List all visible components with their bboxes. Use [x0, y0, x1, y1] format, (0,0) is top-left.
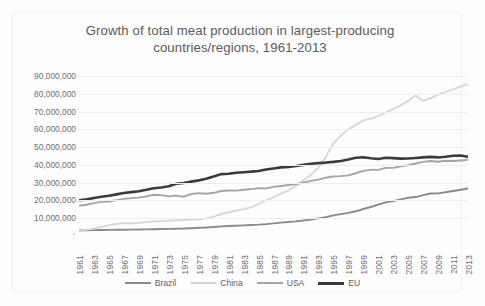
- gridline: [79, 76, 468, 77]
- y-axis-tick-label: 50,000,000: [2, 142, 76, 152]
- x-axis-tick-label: 1975: [180, 255, 190, 274]
- chart-title-line-2: countries/regions, 1961-2013: [40, 39, 440, 56]
- legend-swatch-china: [190, 282, 216, 284]
- gridline: [79, 165, 468, 166]
- x-axis-tick-label: 2003: [389, 255, 399, 274]
- x-axis-tick-label: 1963: [90, 255, 100, 274]
- x-axis-tick-label: 1989: [284, 255, 294, 274]
- y-axis-tick-label: 80,000,000: [2, 89, 76, 99]
- plot-area: [79, 76, 468, 236]
- legend-swatch-brazil: [125, 282, 151, 284]
- y-axis-tick-label: 30,000,000: [2, 178, 76, 188]
- legend-label: China: [220, 278, 242, 288]
- y-axis: 90,000,00080,000,00070,000,00060,000,000…: [0, 76, 76, 236]
- chart-title: Growth of total meat production in large…: [40, 22, 440, 56]
- x-axis-tick-label: 2013: [464, 255, 474, 274]
- x-axis-tick-label: 1991: [299, 255, 309, 274]
- x-axis-tick-label: 2005: [404, 255, 414, 274]
- chart-figure: Growth of total meat production in large…: [0, 0, 485, 306]
- x-axis-tick-label: 1961: [75, 255, 85, 274]
- x-axis: 1961196319651967196919711973197519771979…: [79, 238, 468, 274]
- legend-item-usa[interactable]: USA: [257, 278, 305, 288]
- gridline: [79, 147, 468, 148]
- x-axis-tick-label: 1983: [240, 255, 250, 274]
- gridline: [79, 200, 468, 201]
- y-axis-tick-label: 20,000,000: [2, 195, 76, 205]
- series-lines: [79, 76, 468, 236]
- x-axis-tick-label: 2001: [374, 255, 384, 274]
- x-axis-tick-label: 1999: [359, 255, 369, 274]
- x-axis-tick-label: 1965: [105, 255, 115, 274]
- gridline: [79, 94, 468, 95]
- x-axis-tick-label: 1977: [195, 255, 205, 274]
- gridline: [79, 112, 468, 113]
- chart-legend: BrazilChinaUSAEU: [0, 278, 485, 288]
- y-axis-tick-label: 60,000,000: [2, 124, 76, 134]
- legend-item-brazil[interactable]: Brazil: [125, 278, 177, 288]
- x-axis-tick-label: 1993: [314, 255, 324, 274]
- y-axis-tick-label: 70,000,000: [2, 107, 76, 117]
- x-axis-tick-label: 2009: [434, 255, 444, 274]
- legend-label: EU: [348, 278, 360, 288]
- x-axis-tick-label: 1971: [150, 255, 160, 274]
- y-axis-tick-label: 40,000,000: [2, 160, 76, 170]
- gridline: [79, 129, 468, 130]
- x-axis-tick-label: 1969: [135, 255, 145, 274]
- x-axis-tick-label: 2007: [419, 255, 429, 274]
- x-axis-tick-label: 1979: [210, 255, 220, 274]
- legend-label: USA: [287, 278, 305, 288]
- series-line-eu: [79, 155, 468, 200]
- x-axis-tick-label: 1985: [255, 255, 265, 274]
- legend-swatch-eu: [318, 282, 344, 285]
- x-axis-tick-label: 2011: [449, 255, 459, 274]
- series-line-brazil: [79, 189, 468, 231]
- legend-swatch-usa: [257, 282, 283, 284]
- gridline: [79, 183, 468, 184]
- y-axis-tick-label: 90,000,000: [2, 71, 76, 81]
- legend-item-eu[interactable]: EU: [318, 278, 360, 288]
- y-axis-tick-label: 10,000,000: [2, 213, 76, 223]
- x-axis-tick-label: 1995: [329, 255, 339, 274]
- x-axis-tick-label: 1997: [344, 255, 354, 274]
- chart-title-line-1: Growth of total meat production in large…: [40, 22, 440, 39]
- axis-origin-marker: [73, 233, 75, 235]
- x-axis-tick-label: 1967: [120, 255, 130, 274]
- legend-label: Brazil: [155, 278, 177, 288]
- legend-item-china[interactable]: China: [190, 278, 242, 288]
- x-axis-tick-label: 1981: [225, 255, 235, 274]
- gridline: [79, 218, 468, 219]
- x-axis-tick-label: 1973: [165, 255, 175, 274]
- x-axis-tick-label: 1987: [270, 255, 280, 274]
